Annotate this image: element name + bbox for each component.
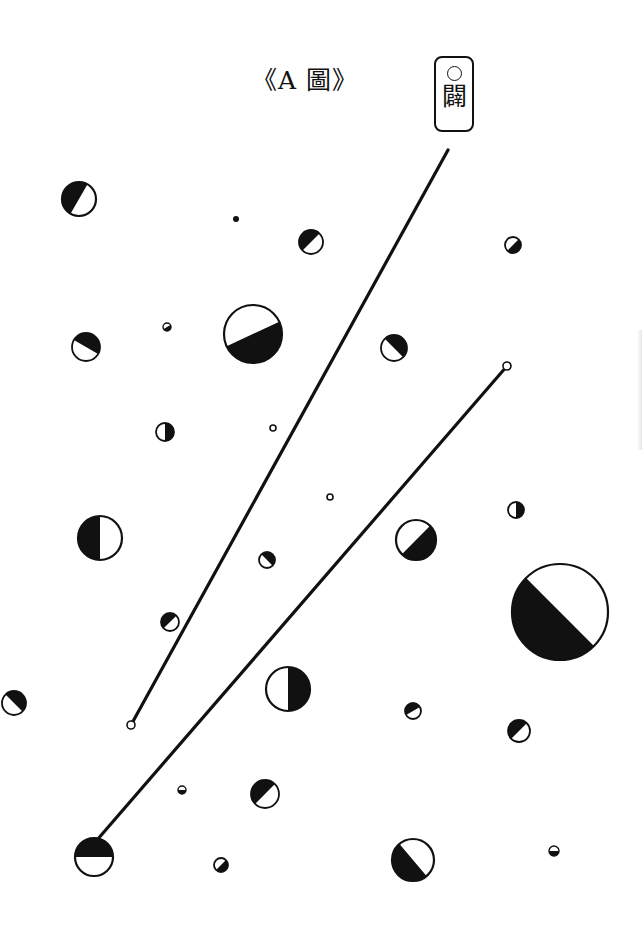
endpoint-marker bbox=[503, 362, 511, 370]
phase-circle bbox=[259, 552, 275, 568]
phase-circle bbox=[327, 494, 333, 500]
phase-circle bbox=[75, 838, 113, 876]
phase-circle bbox=[161, 613, 179, 631]
label-character: 闢 bbox=[442, 83, 467, 111]
phase-circle bbox=[163, 323, 171, 331]
phase-circle bbox=[178, 786, 186, 794]
phase-circle bbox=[2, 691, 26, 715]
endpoint-marker bbox=[127, 721, 135, 729]
figure-title: 《A 圖》 bbox=[252, 60, 358, 96]
phase-circle bbox=[214, 858, 228, 872]
phase-circle bbox=[251, 780, 279, 808]
phase-circle bbox=[266, 667, 310, 711]
star-diagram bbox=[0, 0, 642, 925]
phase-circle bbox=[78, 516, 122, 560]
phase-circle bbox=[508, 502, 524, 518]
phase-circle bbox=[505, 237, 521, 253]
open-circle-icon bbox=[447, 66, 462, 81]
phase-circle bbox=[299, 230, 323, 254]
phase-circle bbox=[233, 216, 239, 222]
phase-circle bbox=[270, 425, 276, 431]
phase-circle bbox=[508, 720, 530, 742]
connector-lines bbox=[97, 150, 511, 840]
phase-circle bbox=[392, 839, 434, 881]
phase-circle bbox=[62, 182, 96, 216]
line-1 bbox=[127, 150, 448, 729]
label-tag: 闢 bbox=[434, 56, 474, 132]
phase-circle bbox=[224, 305, 282, 363]
phase-circle bbox=[72, 333, 100, 361]
phase-circle bbox=[405, 703, 421, 719]
phase-circle bbox=[381, 335, 407, 361]
phase-circle bbox=[512, 564, 608, 660]
phase-circles bbox=[2, 182, 608, 881]
phase-circle bbox=[549, 846, 559, 856]
phase-circle bbox=[396, 520, 436, 560]
page-edge-shadow bbox=[637, 330, 642, 450]
phase-circle bbox=[156, 423, 174, 441]
